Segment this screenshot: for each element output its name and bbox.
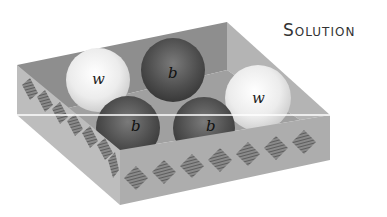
ball-white-3: w — [225, 65, 291, 131]
ball-label: w — [252, 89, 265, 107]
solution-diagram: w b w b b — [0, 0, 387, 217]
ball-label: w — [92, 70, 105, 88]
ball-label: b — [168, 64, 178, 82]
ball-label: b — [206, 117, 216, 135]
ball-black-2: b — [141, 38, 205, 102]
solution-title: Solution — [283, 20, 355, 40]
ball-label: b — [131, 117, 141, 135]
